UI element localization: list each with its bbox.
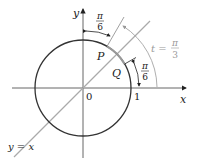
point-p-label: P — [96, 50, 105, 63]
y-axis-label: y — [72, 7, 80, 20]
ray-p — [107, 17, 124, 46]
unit-label: 1 — [134, 91, 140, 102]
t-numerator: π — [171, 38, 179, 48]
origin-label: 0 — [86, 91, 92, 102]
line-label: y = x — [7, 141, 34, 152]
angle-right-numerator: π — [141, 61, 149, 71]
angle-arc-t — [123, 26, 157, 87]
t-label: t = — [151, 43, 167, 54]
angle-top-denominator: 6 — [97, 22, 103, 32]
angle-top-numerator: π — [96, 11, 104, 21]
angle-right-denominator: 6 — [142, 72, 148, 82]
angle-arc-right — [134, 63, 139, 86]
point-q-label: Q — [112, 67, 121, 80]
t-denominator: 3 — [172, 50, 178, 60]
x-axis-label: x — [180, 93, 187, 106]
unit-circle-diagram: y x 0 1 y = x P Q π 6 π 6 t = π 3 — [0, 0, 197, 166]
